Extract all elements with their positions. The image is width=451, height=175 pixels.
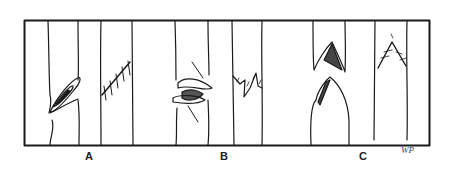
illustration bbox=[0, 0, 451, 175]
panel-label-b: B bbox=[220, 150, 228, 162]
panel-label-a: A bbox=[85, 150, 93, 162]
panel-a-cut-stem bbox=[48, 21, 80, 145]
frame bbox=[25, 21, 430, 146]
panel-c-sutured-stem bbox=[374, 21, 407, 140]
panel-a-sutured-stem bbox=[101, 21, 133, 145]
panel-b-split-stem bbox=[173, 21, 212, 145]
panel-label-c: C bbox=[359, 150, 367, 162]
panel-b-sutured-stem bbox=[232, 21, 262, 145]
panel-c-v-cut-stem bbox=[311, 21, 349, 145]
artist-signature: WP bbox=[401, 145, 414, 155]
